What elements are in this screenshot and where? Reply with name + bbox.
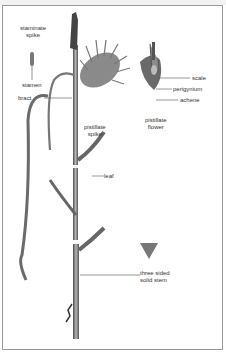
- label-staminate-spike: staminate spike: [20, 25, 46, 39]
- bract-icon: [49, 73, 74, 150]
- signature-icon: [66, 304, 72, 322]
- label-pistillate-spike: pistillate spike: [84, 124, 106, 138]
- label-perigynium: perigynium: [173, 86, 202, 93]
- pistillate-flower-icon: [140, 42, 161, 90]
- label-pistillate-flower: pistillate flower: [145, 117, 167, 131]
- stem-cross-section-icon: [140, 243, 158, 259]
- label-bract: bract: [18, 95, 31, 102]
- label-leaf: leaf: [104, 173, 114, 180]
- top-spike-icon: [70, 12, 78, 50]
- label-scale: scale: [192, 75, 206, 82]
- main-stem-icon: [73, 45, 79, 339]
- staminate-spike-icon: [30, 52, 34, 80]
- pistillate-spike-icon: [73, 40, 130, 95]
- drooping-leaf-icon: [21, 96, 48, 281]
- label-three-sided-solid-stem: three sided solid stem: [140, 270, 170, 284]
- label-achene: achene: [180, 97, 200, 104]
- label-stamen: stamen: [22, 82, 42, 89]
